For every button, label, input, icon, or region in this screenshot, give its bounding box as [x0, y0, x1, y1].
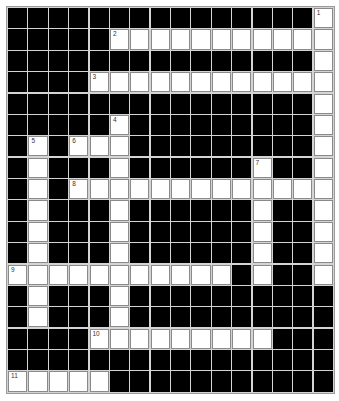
crossword-cell[interactable] [130, 72, 149, 92]
crossword-cell[interactable] [293, 29, 312, 49]
crossword-cell[interactable] [314, 72, 333, 92]
crossword-cell[interactable] [314, 222, 333, 242]
crossword-cell[interactable]: 7 [253, 158, 272, 178]
crossword-cell[interactable] [110, 158, 129, 178]
crossword-cell[interactable] [28, 243, 47, 263]
crossword-cell[interactable] [253, 265, 272, 285]
crossword-cell[interactable]: 6 [69, 136, 88, 156]
crossword-cell[interactable] [314, 200, 333, 220]
crossword-cell[interactable] [314, 51, 333, 71]
crossword-cell[interactable] [191, 72, 210, 92]
crossword-cell[interactable] [314, 29, 333, 49]
crossword-cell[interactable] [171, 179, 190, 199]
crossword-cell[interactable]: 10 [90, 329, 109, 349]
crossword-cell[interactable] [28, 371, 47, 391]
crossword-cell[interactable] [253, 179, 272, 199]
crossword-cell[interactable] [110, 179, 129, 199]
crossword-cell[interactable] [110, 222, 129, 242]
crossword-cell[interactable] [110, 307, 129, 327]
blocked-cell [49, 8, 68, 28]
crossword-cell[interactable] [130, 265, 149, 285]
crossword-cell[interactable] [151, 72, 170, 92]
crossword-cell[interactable] [314, 115, 333, 135]
crossword-cell[interactable] [110, 72, 129, 92]
crossword-cell[interactable] [314, 265, 333, 285]
crossword-cell[interactable]: 5 [28, 136, 47, 156]
crossword-cell[interactable] [151, 179, 170, 199]
crossword-cell[interactable] [232, 72, 251, 92]
crossword-cell[interactable] [253, 243, 272, 263]
crossword-cell[interactable]: 4 [110, 115, 129, 135]
crossword-cell[interactable] [171, 29, 190, 49]
crossword-cell[interactable] [232, 329, 251, 349]
crossword-cell[interactable] [49, 265, 68, 285]
crossword-cell[interactable] [69, 371, 88, 391]
crossword-cell[interactable] [90, 136, 109, 156]
crossword-cell[interactable] [28, 307, 47, 327]
crossword-cell[interactable] [314, 243, 333, 263]
crossword-cell[interactable] [151, 29, 170, 49]
crossword-cell[interactable] [90, 371, 109, 391]
crossword-cell[interactable] [49, 371, 68, 391]
crossword-cell[interactable]: 11 [8, 371, 27, 391]
crossword-cell[interactable] [212, 29, 231, 49]
crossword-cell[interactable] [28, 286, 47, 306]
crossword-cell[interactable] [253, 222, 272, 242]
crossword-cell[interactable] [293, 72, 312, 92]
crossword-cell[interactable]: 3 [90, 72, 109, 92]
crossword-cell[interactable] [314, 179, 333, 199]
crossword-cell[interactable] [28, 158, 47, 178]
crossword-cell[interactable] [130, 329, 149, 349]
crossword-cell[interactable] [110, 265, 129, 285]
crossword-cell[interactable] [171, 265, 190, 285]
blocked-cell [212, 350, 231, 370]
crossword-cell[interactable] [151, 265, 170, 285]
crossword-cell[interactable] [293, 179, 312, 199]
blocked-cell [8, 222, 27, 242]
crossword-cell[interactable] [273, 179, 292, 199]
blocked-cell [49, 350, 68, 370]
crossword-cell[interactable]: 1 [314, 8, 333, 28]
crossword-cell[interactable] [28, 222, 47, 242]
crossword-cell[interactable] [28, 265, 47, 285]
crossword-cell[interactable] [191, 265, 210, 285]
crossword-cell[interactable] [151, 329, 170, 349]
crossword-cell[interactable] [253, 29, 272, 49]
crossword-cell[interactable] [314, 158, 333, 178]
crossword-cell[interactable] [253, 72, 272, 92]
crossword-cell[interactable] [191, 179, 210, 199]
crossword-cell[interactable] [212, 265, 231, 285]
crossword-cell[interactable] [110, 243, 129, 263]
blocked-cell [232, 371, 251, 391]
crossword-cell[interactable] [232, 179, 251, 199]
crossword-cell[interactable] [314, 136, 333, 156]
crossword-cell[interactable] [110, 286, 129, 306]
crossword-cell[interactable] [171, 72, 190, 92]
crossword-cell[interactable] [110, 200, 129, 220]
crossword-cell[interactable] [212, 329, 231, 349]
crossword-cell[interactable] [273, 29, 292, 49]
crossword-cell[interactable] [191, 29, 210, 49]
crossword-cell[interactable] [191, 329, 210, 349]
crossword-cell[interactable] [69, 265, 88, 285]
crossword-cell[interactable] [130, 179, 149, 199]
blocked-cell [232, 307, 251, 327]
crossword-cell[interactable] [171, 329, 190, 349]
crossword-cell[interactable] [90, 265, 109, 285]
crossword-cell[interactable] [212, 72, 231, 92]
crossword-cell[interactable] [28, 200, 47, 220]
crossword-cell[interactable] [110, 329, 129, 349]
crossword-cell[interactable] [90, 179, 109, 199]
crossword-cell[interactable] [314, 94, 333, 114]
crossword-cell[interactable]: 2 [110, 29, 129, 49]
crossword-cell[interactable] [110, 136, 129, 156]
crossword-cell[interactable] [253, 329, 272, 349]
crossword-cell[interactable] [253, 200, 272, 220]
crossword-cell[interactable]: 9 [8, 265, 27, 285]
crossword-cell[interactable] [232, 29, 251, 49]
crossword-cell[interactable] [28, 179, 47, 199]
crossword-cell[interactable] [273, 72, 292, 92]
crossword-cell[interactable]: 8 [69, 179, 88, 199]
crossword-cell[interactable] [212, 179, 231, 199]
crossword-cell[interactable] [130, 29, 149, 49]
